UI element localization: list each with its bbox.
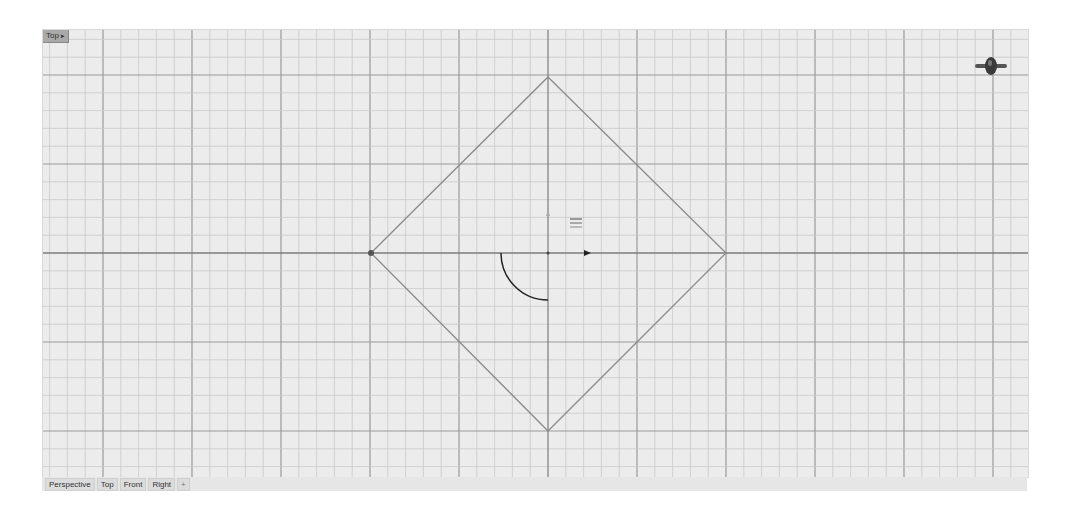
tab-front[interactable]: Front [120, 478, 147, 491]
osnap-marker-icon [569, 216, 583, 230]
tab-right[interactable]: Right [148, 478, 175, 491]
tab-perspective[interactable]: Perspective [45, 478, 95, 491]
viewport-tab-bar: Perspective Top Front Right + [42, 477, 1027, 491]
add-viewport-tab-button[interactable]: + [177, 478, 190, 491]
origin-marker [547, 252, 550, 255]
construction-grid [43, 30, 1028, 477]
curve-point-marker[interactable] [368, 250, 374, 256]
tab-top[interactable]: Top [97, 478, 118, 491]
gumball-y-arrow-icon[interactable] [546, 210, 550, 216]
top-viewport[interactable]: Top▸ [42, 29, 1029, 478]
viewport-title-menu[interactable]: Top▸ [43, 30, 69, 43]
view-navigation-icon[interactable] [973, 54, 1009, 78]
viewport-menu-arrow-icon: ▸ [61, 32, 65, 39]
arc-curve[interactable] [501, 253, 548, 300]
viewport-title: Top [46, 31, 59, 40]
gumball-x-arrow-icon[interactable] [584, 250, 591, 256]
